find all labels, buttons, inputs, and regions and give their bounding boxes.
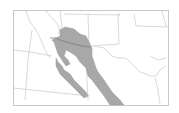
range-map bbox=[0, 0, 179, 113]
